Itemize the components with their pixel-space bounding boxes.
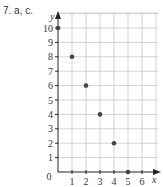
x-tick-label: 2 <box>84 176 89 187</box>
y-tick-label: 6 <box>48 80 53 91</box>
y-tick-label: 4 <box>48 109 53 120</box>
scatter-chart: xy012345612345678910 <box>0 0 163 187</box>
y-axis-label: y <box>49 11 55 22</box>
x-tick-label: 3 <box>98 176 103 187</box>
y-tick-label: 3 <box>48 123 53 134</box>
data-point <box>98 112 103 117</box>
x-tick-label: 5 <box>126 176 131 187</box>
grid <box>58 13 158 172</box>
data-point <box>84 83 89 88</box>
x-tick-label: 1 <box>70 176 75 187</box>
data-point <box>126 170 131 175</box>
y-tick-label: 8 <box>48 51 53 62</box>
y-tick-label: 10 <box>43 23 53 34</box>
y-tick-label: 9 <box>48 37 53 48</box>
x-tick-label: 4 <box>112 176 117 187</box>
data-point <box>56 26 61 31</box>
y-tick-label: 1 <box>48 152 53 163</box>
y-tick-label: 7 <box>48 66 53 77</box>
x-tick-label: 6 <box>140 176 145 187</box>
x-tick-label: 0 <box>47 171 52 182</box>
y-tick-label: 2 <box>48 138 53 149</box>
data-point <box>70 55 75 60</box>
data-point <box>112 141 117 146</box>
y-tick-label: 5 <box>48 95 53 106</box>
x-axis-label: x <box>151 174 157 185</box>
y-axis-arrow-icon <box>55 11 61 19</box>
